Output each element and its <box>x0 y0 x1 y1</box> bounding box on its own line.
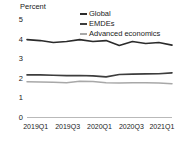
y-axis-tick-1: 1 <box>19 94 23 102</box>
y-axis-tick-0: 0 <box>19 114 23 122</box>
y-axis-title: Percent <box>20 2 46 11</box>
y-axis-tick-5: 5 <box>19 16 23 24</box>
y-axis-tick-2: 2 <box>19 75 23 83</box>
y-axis-tick-3: 3 <box>19 55 23 63</box>
legend-label-global: Global <box>89 9 111 18</box>
x-axis-tick-2020q3: 2020Q3 <box>119 122 144 131</box>
series-lines <box>27 20 172 118</box>
plot-area: 0 1 2 3 4 5 <box>27 20 172 118</box>
x-axis-tick-2020q1: 2020Q1 <box>87 122 112 131</box>
series-line-advanced-economics <box>27 81 172 84</box>
y-axis-tick-4: 4 <box>19 36 23 44</box>
legend-item-global: Global <box>80 9 160 18</box>
line-chart: Percent Global EMDEs Advanced economics … <box>0 0 176 141</box>
series-line-emdes <box>27 73 172 77</box>
x-axis-tick-2019q1: 2019Q1 <box>23 122 48 131</box>
series-line-global <box>27 40 172 46</box>
x-axis-tick-2021q1: 2021Q1 <box>149 122 174 131</box>
x-axis-tick-2019q3: 2019Q3 <box>55 122 80 131</box>
legend-swatch-global <box>80 13 87 15</box>
x-axis-ticks: 2019Q1 2019Q3 2020Q1 2020Q3 2021Q1 <box>27 122 172 134</box>
